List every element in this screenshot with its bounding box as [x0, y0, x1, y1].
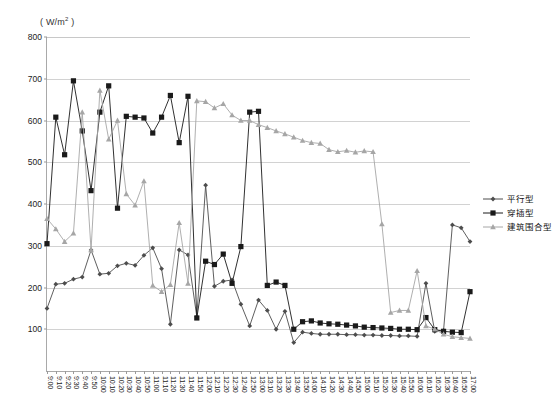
x-axis-tick-label: 11:40 — [188, 376, 195, 392]
x-axis-tick-label: 15:10 — [373, 376, 380, 393]
data-point-marker — [468, 239, 473, 244]
data-point-marker — [97, 110, 102, 115]
data-point-marker — [194, 315, 199, 320]
data-point-marker — [300, 319, 305, 324]
series-line — [47, 185, 470, 342]
legend-item-1[interactable]: 穿插型 — [482, 206, 552, 220]
legend-item-2[interactable]: 建筑围合型 — [482, 220, 552, 234]
data-point-marker — [124, 114, 129, 119]
data-point-marker — [406, 327, 411, 332]
data-point-marker — [379, 221, 385, 226]
data-point-marker — [53, 282, 58, 287]
data-point-marker — [80, 275, 85, 280]
data-point-marker — [97, 272, 102, 277]
data-point-marker — [344, 322, 349, 327]
x-axis-tick-mark — [338, 371, 339, 374]
x-axis-tick-mark — [109, 371, 110, 374]
legend-label: 建筑围合型 — [507, 223, 552, 232]
x-axis-tick-mark — [400, 371, 401, 374]
legend-marker-icon — [482, 222, 504, 232]
data-point-marker — [256, 109, 261, 114]
x-axis-tick-mark — [206, 371, 207, 374]
data-point-marker — [221, 279, 226, 284]
data-point-marker — [388, 326, 393, 331]
data-point-marker — [62, 152, 67, 157]
data-point-marker — [256, 122, 262, 127]
legend-item-0[interactable]: 平行型 — [482, 192, 552, 206]
y-axis-unit-label: ( W/m2 ) — [40, 16, 74, 27]
data-point-marker — [415, 327, 420, 332]
data-point-marker — [97, 88, 103, 93]
data-point-marker — [168, 322, 173, 327]
x-axis-tick-label: 16:50 — [461, 376, 468, 393]
y-axis-tick-label: 200 — [28, 283, 42, 293]
x-axis-tick-label: 15:00 — [364, 376, 371, 393]
data-point-marker — [467, 289, 472, 294]
data-point-marker — [309, 331, 314, 336]
x-axis-tick-label: 14:00 — [311, 376, 318, 393]
x-axis-tick-label: 10:40 — [135, 376, 142, 393]
data-point-marker — [344, 148, 350, 153]
x-axis-tick-label: 9:00 — [47, 376, 54, 389]
x-axis-tick-mark — [232, 371, 233, 374]
x-axis-tick-label: 9:40 — [82, 376, 89, 389]
y-axis-tick-label: 100 — [28, 324, 42, 334]
data-point-marker — [238, 244, 243, 249]
data-point-marker — [371, 333, 376, 338]
data-point-marker — [327, 332, 332, 337]
x-axis-tick-label: 17:00 — [470, 376, 477, 393]
data-point-marker — [221, 252, 226, 257]
data-point-marker — [326, 147, 332, 152]
x-axis-tick-mark — [303, 371, 304, 374]
x-axis-tick-label: 9:30 — [73, 376, 80, 389]
x-axis-tick-label: 10:30 — [126, 376, 133, 393]
x-axis-tick-mark — [417, 371, 418, 374]
y-axis-unit-suffix: ) — [69, 17, 75, 27]
data-point-marker — [406, 334, 411, 339]
x-axis-tick-mark — [188, 371, 189, 374]
x-axis-tick-label: 16:40 — [452, 376, 459, 393]
data-point-marker — [185, 280, 191, 285]
x-axis-tick-label: 14:20 — [329, 376, 336, 393]
data-point-marker — [229, 281, 234, 286]
data-point-marker — [344, 332, 349, 337]
x-axis-tick-mark — [452, 371, 453, 374]
data-point-marker — [424, 281, 429, 286]
x-axis-tick-mark — [329, 371, 330, 374]
data-point-marker — [459, 225, 464, 230]
x-axis-tick-mark — [426, 371, 427, 374]
data-point-marker — [168, 93, 173, 98]
data-point-marker — [265, 283, 270, 288]
data-point-marker — [44, 241, 49, 246]
data-point-marker — [415, 334, 420, 339]
data-point-marker — [379, 325, 384, 330]
data-point-marker — [379, 333, 384, 338]
x-axis-tick-label: 11:50 — [196, 376, 203, 392]
x-axis-tick-mark — [214, 371, 215, 374]
x-axis-tick-label: 10:10 — [108, 376, 115, 393]
data-point-marker — [212, 105, 218, 110]
x-axis-tick-label: 11:10 — [161, 376, 168, 392]
x-axis-tick-label: 10:20 — [117, 376, 124, 393]
x-axis-tick-mark — [408, 371, 409, 374]
x-axis-tick-mark — [144, 371, 145, 374]
data-point-marker — [490, 210, 495, 215]
x-axis-tick-mark — [259, 371, 260, 374]
x-axis-tick-mark — [118, 371, 119, 374]
x-axis-tick-mark — [294, 371, 295, 374]
x-axis-tick-label: 9:50 — [91, 376, 98, 389]
data-point-marker — [168, 282, 174, 287]
x-axis-tick-mark — [179, 371, 180, 374]
data-point-marker — [459, 330, 464, 335]
x-axis-tick-label: 14:50 — [355, 376, 362, 393]
data-point-marker — [318, 332, 323, 337]
x-axis-tick-label: 16:00 — [417, 376, 424, 393]
x-axis-tick-mark — [435, 371, 436, 374]
data-point-marker — [283, 309, 288, 314]
data-point-marker — [150, 130, 155, 135]
x-axis-tick-mark — [47, 371, 48, 374]
x-axis-tick-label: 9:20 — [64, 376, 71, 389]
x-axis-tick-mark — [355, 371, 356, 374]
x-axis-tick-mark — [65, 371, 66, 374]
legend-label: 平行型 — [507, 195, 534, 204]
